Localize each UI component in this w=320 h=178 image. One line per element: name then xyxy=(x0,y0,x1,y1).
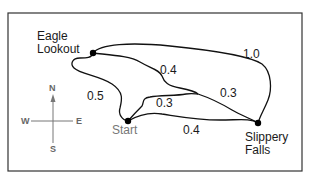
trail-start-to-falls xyxy=(128,113,258,123)
eagle-lookout-marker xyxy=(90,50,96,56)
distance-eagle-to-falls: 1.0 xyxy=(243,48,260,60)
start-label: Start xyxy=(112,124,137,136)
trail-eagle-to-start xyxy=(72,53,128,121)
compass-east-label: E xyxy=(76,117,82,126)
distance-eagle-to-junction: 0.4 xyxy=(160,64,177,76)
compass-west-label: W xyxy=(21,117,30,126)
distance-junction-to-falls: 0.3 xyxy=(220,87,237,99)
compass-north-label: N xyxy=(49,84,56,93)
eagle-lookout-label: Eagle Lookout xyxy=(37,30,80,56)
slippery-falls-label: Slippery Falls xyxy=(245,131,288,157)
compass-rose-icon xyxy=(31,94,73,143)
slippery-falls-label-line2: Falls xyxy=(245,144,288,157)
trail-eagle-to-junction xyxy=(93,53,198,94)
compass-south-label: S xyxy=(50,145,56,154)
distance-start-to-falls: 0.4 xyxy=(183,124,200,136)
distance-start-to-junction: 0.3 xyxy=(156,97,173,109)
distance-eagle-to-start: 0.5 xyxy=(87,90,104,102)
slippery-falls-marker xyxy=(255,120,261,126)
eagle-lookout-label-line2: Lookout xyxy=(37,43,80,56)
